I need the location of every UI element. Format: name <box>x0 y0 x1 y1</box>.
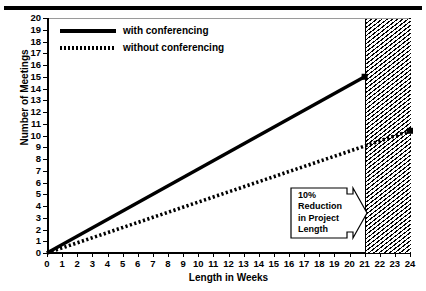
callout-text-line: Length <box>298 224 350 235</box>
legend-item-with-conferencing: with conferencing <box>60 22 210 39</box>
figure: Number of Meetings Length in Weeks 01234… <box>0 0 426 291</box>
callout-text-line: 10% <box>298 190 350 201</box>
y-tick-label: 8 <box>19 154 41 164</box>
y-tick-label: 5 <box>19 189 41 199</box>
y-tick-label: 9 <box>19 142 41 152</box>
series-endpoint-marker <box>362 74 368 80</box>
y-tick-label: 3 <box>19 213 41 223</box>
y-tick-label: 13 <box>19 95 41 105</box>
dotted-line-swatch-icon <box>60 42 116 54</box>
y-tick-label: 15 <box>19 72 41 82</box>
page-rule <box>4 6 422 10</box>
legend-label-with-conferencing: with conferencing <box>123 25 209 36</box>
y-tick-label: 18 <box>19 37 41 47</box>
callout-text-line: in Project <box>298 213 350 224</box>
y-tick-label: 12 <box>19 107 41 117</box>
legend: with conferencing without conferencing <box>60 22 210 56</box>
series-endpoint-marker <box>407 128 413 134</box>
y-tick-label: 0 <box>19 248 41 258</box>
legend-label-without-conferencing: without conferencing <box>123 42 224 53</box>
solid-line-swatch-icon <box>60 25 116 37</box>
annotation-callout: 10%Reductionin ProjectLength <box>290 185 368 241</box>
y-tick-label: 4 <box>19 201 41 211</box>
x-axis-title: Length in Weeks <box>47 272 410 283</box>
legend-item-without-conferencing: without conferencing <box>60 39 210 56</box>
y-tick-label: 11 <box>19 119 41 129</box>
y-tick-label: 2 <box>19 225 41 235</box>
y-tick-label: 16 <box>19 60 41 70</box>
y-tick-label: 6 <box>19 178 41 188</box>
callout-text-line: Reduction <box>298 201 350 212</box>
callout-text: 10%Reductionin ProjectLength <box>298 190 350 236</box>
x-tick-label: 24 <box>400 259 420 269</box>
y-tick-label: 20 <box>19 13 41 23</box>
y-tick-label: 14 <box>19 84 41 94</box>
y-tick-label: 1 <box>19 236 41 246</box>
y-tick-label: 10 <box>19 131 41 141</box>
y-tick-label: 7 <box>19 166 41 176</box>
y-tick-label: 19 <box>19 25 41 35</box>
y-tick-label: 17 <box>19 48 41 58</box>
